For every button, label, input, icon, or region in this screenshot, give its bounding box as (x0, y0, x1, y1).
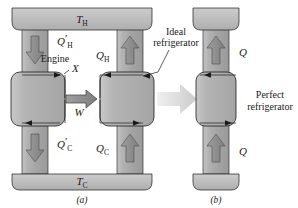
panel-b-hot-reservoir (193, 8, 239, 30)
thermodynamics-figure: TH TC (0, 0, 298, 208)
engine-box (11, 72, 65, 126)
ideal-refrigerator-box (100, 72, 154, 126)
engine-name-label: X (71, 62, 80, 74)
cold-reservoir-sub: C (83, 181, 88, 190)
panel-b-label-q-top: Q (239, 46, 247, 58)
engine-label: Engine (41, 53, 70, 64)
ideal-refrigerator-line1: Ideal (166, 26, 186, 37)
perfect-refrigerator-box (196, 72, 236, 126)
panel-b-cold-reservoir (193, 174, 239, 190)
panel-a-caption: (a) (76, 195, 87, 206)
ideal-refrigerator-line2: refrigerator (153, 37, 199, 48)
panel-b-label-q-bottom: Q (239, 145, 247, 157)
perfect-refrigerator-line2: refrigerator (247, 101, 293, 112)
work-label: W (74, 106, 84, 118)
hot-reservoir: TH (12, 8, 152, 30)
panel-b-caption: (b) (210, 195, 221, 206)
hot-reservoir-sub: H (82, 19, 88, 28)
perfect-refrigerator-line1: Perfect (256, 89, 285, 100)
cold-reservoir: TC (12, 174, 152, 190)
